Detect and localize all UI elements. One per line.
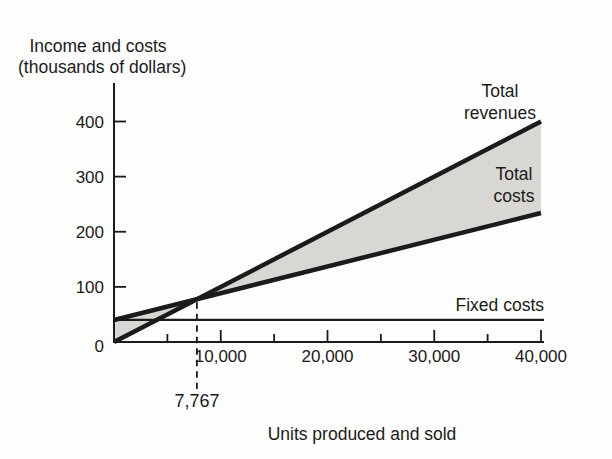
y-axis-title-line1: Income and costs	[18, 36, 178, 57]
x-axis-title: Units produced and sold	[212, 423, 512, 445]
break-even-chart-figure: Income and costs (thousands of dollars) …	[0, 0, 612, 459]
y-tick-label: 100	[44, 278, 104, 298]
fixed-costs-label: Fixed costs	[420, 294, 544, 316]
y-tick-label: 400	[44, 113, 104, 133]
x-tick-label: 10,000	[181, 347, 261, 367]
y-axis-title: Income and costs (thousands of dollars)	[18, 36, 178, 78]
total-revenues-label-line2: revenues	[440, 102, 560, 124]
total-costs-label-line1: Total	[464, 163, 564, 185]
y-tick-label: 200	[44, 223, 104, 243]
x-tick-label: 30,000	[394, 347, 474, 367]
total-costs-label-line2: costs	[464, 185, 564, 207]
x-tick-label: 20,000	[288, 347, 368, 367]
break-even-units-label: 7,767	[157, 390, 237, 412]
total-revenues-label: Total revenues	[440, 80, 560, 124]
total-revenues-label-line1: Total	[440, 80, 560, 102]
y-axis-title-line2: (thousands of dollars)	[18, 57, 178, 78]
total-costs-label: Total costs	[464, 163, 564, 207]
y-tick-label: 300	[44, 168, 104, 188]
y-tick-label: 0	[44, 337, 104, 357]
x-tick-label: 40,000	[501, 347, 581, 367]
